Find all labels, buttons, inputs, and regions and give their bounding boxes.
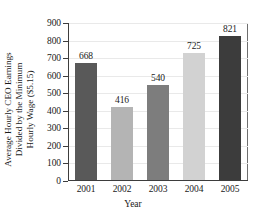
plot-area: 0100200300400500600700800900 66820014162…	[68, 23, 248, 181]
y-axis-tick-label: 100	[47, 158, 61, 168]
x-axis-tick-label: 2003	[149, 184, 168, 194]
bar-value-label: 416	[115, 95, 129, 105]
x-axis-title: Year	[0, 199, 266, 209]
y-axis-tick	[63, 93, 68, 94]
y-axis-tick-label: 800	[47, 36, 61, 46]
y-axis-tick	[63, 23, 68, 24]
bar-value-label: 540	[151, 73, 165, 83]
y-axis-tick-label: 600	[47, 71, 61, 81]
x-axis-tick-label: 2002	[113, 184, 132, 194]
y-axis-tick-label: 500	[47, 88, 61, 98]
y-axis-tick	[63, 111, 68, 112]
y-axis-title-line-2: Divided by the Minimum	[14, 52, 25, 166]
y-axis-tick	[63, 58, 68, 59]
bar: 6682001	[75, 63, 97, 180]
bar: 5402003	[147, 85, 169, 180]
y-axis-tick-label: 300	[47, 123, 61, 133]
bar-value-label: 821	[223, 24, 237, 34]
y-axis-tick	[63, 146, 68, 147]
bar-chart-figure: Average Hourly CEO Earnings Divided by t…	[0, 0, 266, 218]
y-axis-tick	[63, 128, 68, 129]
y-axis-tick-label: 400	[47, 106, 61, 116]
bar: 8212005	[219, 36, 241, 180]
y-axis-title-line-1: Average Hourly CEO Earnings	[3, 52, 14, 166]
y-axis-tick-label: 700	[47, 53, 61, 63]
bar-value-label: 668	[79, 51, 93, 61]
gridline	[69, 23, 248, 24]
y-axis-tick-label: 0	[56, 176, 61, 186]
bar-value-label: 725	[187, 41, 201, 51]
y-axis-tick-label: 900	[47, 18, 61, 28]
y-axis-tick-label: 200	[47, 141, 61, 151]
x-axis-line	[68, 180, 248, 181]
y-axis-tick	[63, 41, 68, 42]
x-axis-tick-label: 2004	[185, 184, 204, 194]
bar: 7252004	[183, 53, 205, 180]
plot-right-border	[247, 23, 248, 181]
y-axis-title: Average Hourly CEO Earnings Divided by t…	[2, 0, 36, 218]
y-axis-line	[68, 23, 69, 181]
bar: 4162002	[111, 107, 133, 180]
y-axis-tick	[63, 163, 68, 164]
y-axis-tick	[63, 181, 68, 182]
x-axis-tick-label: 2005	[221, 184, 240, 194]
y-axis-tick	[63, 76, 68, 77]
x-axis-tick-label: 2001	[77, 184, 96, 194]
y-axis-title-line-3: Hourly Wage ($5.15)	[25, 52, 36, 166]
